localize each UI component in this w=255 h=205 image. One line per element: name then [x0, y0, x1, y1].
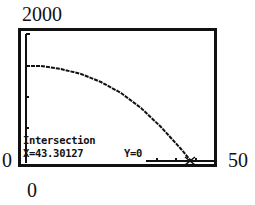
ymax-label: 2000: [22, 4, 62, 24]
xmax-label: 50: [228, 150, 248, 170]
x-readout: X=43.30127: [23, 148, 83, 159]
calculator-screen: Intersection X=43.30127 Y=0: [18, 28, 217, 167]
mode-label: Intersection: [23, 135, 95, 146]
ymin-label: 0: [27, 180, 37, 200]
xmin-label: 0: [2, 150, 12, 170]
y-readout: Y=0: [124, 148, 142, 159]
